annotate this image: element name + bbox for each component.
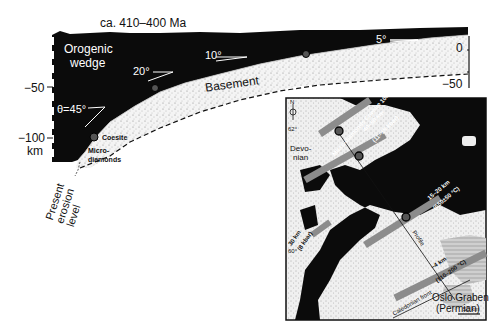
axis-right-tick-0: 0: [456, 42, 463, 54]
coesite-label: Coesite: [102, 134, 127, 141]
north-label: N: [290, 99, 294, 105]
wedge-label-2: wedge: [70, 57, 105, 69]
devonian-label-1: Devo-: [290, 145, 311, 153]
oslo-graben-label-1: Oslo Graben: [432, 293, 489, 303]
microdiamonds-label-2: diamonds: [88, 156, 121, 163]
angle-10: 10°: [205, 50, 222, 61]
microdiamonds-label-1: Micro-: [88, 147, 109, 154]
wedge-label-1: Orogenic: [64, 43, 113, 55]
figure-title: ca. 410–400 Ma: [100, 17, 186, 29]
scale-label: 50 km: [463, 306, 479, 312]
angle-45: θ=45°: [57, 104, 86, 115]
angle-20: 20°: [133, 66, 150, 77]
axis-right-tick-50: −50: [442, 78, 462, 90]
axis-left-tick-50: −50: [24, 82, 44, 94]
angle-5: 5°: [376, 34, 387, 45]
marker-20deg: [152, 85, 159, 92]
marker-coesite: [90, 133, 98, 141]
devonian-label-2: nian: [293, 154, 308, 162]
axis-left-unit: km: [27, 145, 43, 157]
marker-5deg: [303, 51, 310, 58]
lat-62: 62°: [288, 126, 297, 132]
lat-60: 60°: [288, 248, 297, 254]
axis-left-tick-100: −100: [18, 132, 45, 144]
